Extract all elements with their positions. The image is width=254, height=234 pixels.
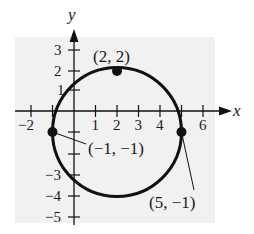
x-tick-label: 2 bbox=[113, 117, 121, 133]
y-tick-label: 3 bbox=[54, 42, 62, 58]
y-tick-label: −3 bbox=[45, 167, 61, 183]
x-tick-label: 4 bbox=[156, 117, 164, 133]
point-label-right: (5, −1) bbox=[149, 193, 195, 212]
point-label-top: (2, 2) bbox=[93, 47, 130, 66]
x-tick-label: 3 bbox=[135, 117, 143, 133]
point-neg1-neg1 bbox=[48, 127, 58, 137]
x-axis-arrow-icon bbox=[219, 107, 232, 116]
x-tick-label: 1 bbox=[92, 117, 100, 133]
y-axis-arrow-icon bbox=[70, 29, 79, 42]
x-tick-label: 6 bbox=[199, 117, 207, 133]
y-tick-label: 2 bbox=[54, 63, 62, 79]
y-tick-label: −4 bbox=[45, 188, 61, 204]
x-axis-label: x bbox=[232, 101, 241, 120]
point-5-neg1 bbox=[177, 127, 187, 137]
y-tick-label: −5 bbox=[45, 209, 61, 225]
point-2-2 bbox=[112, 66, 122, 76]
y-axis-label: y bbox=[66, 5, 76, 24]
x-tick-label: −2 bbox=[18, 117, 34, 133]
point-label-left: (−1, −1) bbox=[88, 139, 144, 158]
circle-graph-figure: x y −2 1 2 3 4 6 3 2 1 −3 −4 −5 (2 bbox=[0, 0, 254, 234]
chart-svg: x y −2 1 2 3 4 6 3 2 1 −3 −4 −5 (2 bbox=[0, 0, 254, 234]
